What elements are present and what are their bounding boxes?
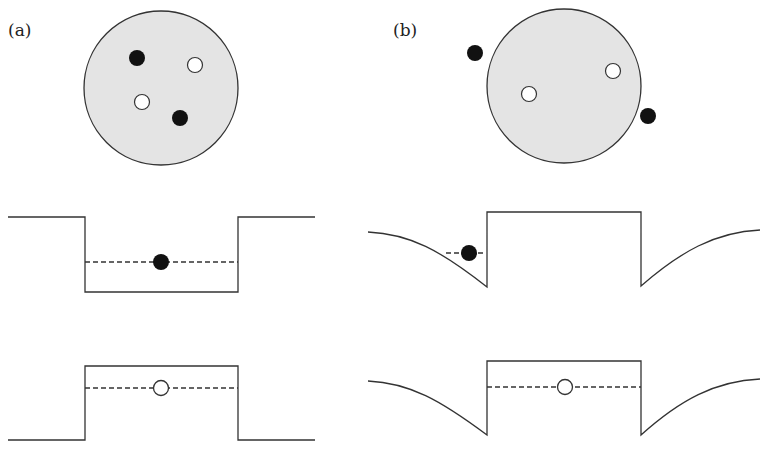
electron-dot [172, 110, 188, 126]
hole-dot [188, 58, 203, 73]
hole-dot [522, 87, 537, 102]
electron-dot [467, 45, 483, 61]
valence-band-b [368, 361, 760, 435]
electron-dot [640, 108, 656, 124]
valence-band-a [8, 366, 315, 440]
conduction-band-a [8, 217, 315, 292]
electron-dot [153, 254, 169, 270]
hole-dot [154, 381, 169, 396]
hole-dot [606, 64, 621, 79]
hole-dot [558, 380, 573, 395]
band-diagram-figure [0, 0, 765, 456]
disk-a [84, 11, 238, 165]
hole-dot [135, 95, 150, 110]
electron-dot [461, 245, 477, 261]
disk-b [467, 9, 656, 163]
electron-dot [129, 50, 145, 66]
conduction-band-b [368, 212, 760, 287]
